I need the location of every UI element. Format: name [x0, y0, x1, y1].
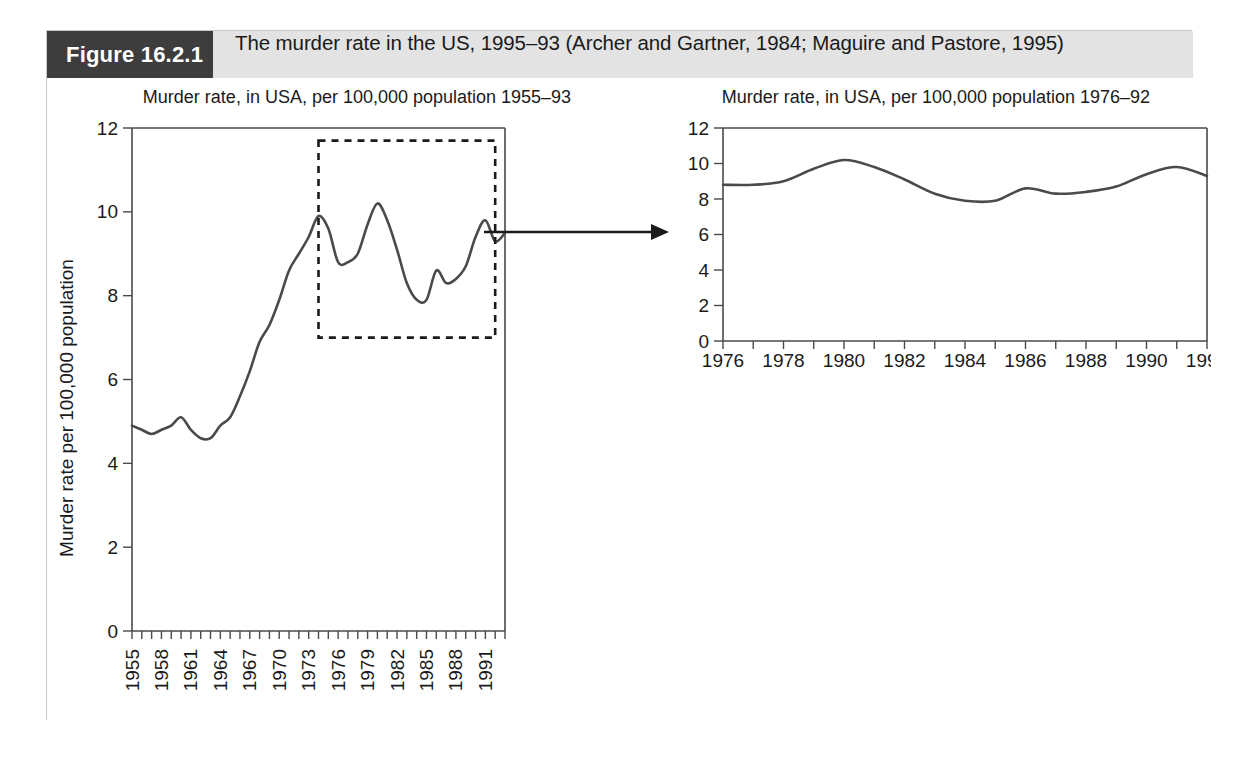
x-tick-label: 1958 [151, 649, 172, 691]
right-x-tick-group: 197619781980198219841986198819901992 [702, 341, 1211, 371]
left-x-tick-group: 1955195819611964196719701973197619791982… [122, 631, 506, 691]
y-tick-label: 4 [698, 260, 709, 281]
x-tick-label: 1991 [475, 649, 496, 691]
y-tick-label: 0 [698, 331, 709, 352]
x-tick-label: 1986 [1004, 350, 1046, 371]
x-tick-label: 1964 [210, 649, 231, 692]
x-tick-label: 1988 [1065, 350, 1107, 371]
figure-body: Murder rate, in USA, per 100,000 populat… [47, 78, 1193, 720]
figure-number-block: Figure 16.2.1 [47, 31, 213, 78]
left-data-line [132, 203, 505, 439]
y-tick-label: 2 [698, 295, 709, 316]
y-tick-label: 2 [107, 537, 118, 558]
x-tick-label: 1982 [883, 350, 925, 371]
x-tick-label: 1984 [944, 350, 987, 371]
right-y-tick-group: 024681012 [688, 118, 723, 352]
x-tick-label: 1988 [445, 649, 466, 691]
y-tick-label: 6 [107, 369, 118, 390]
right-chart-title: Murder rate, in USA, per 100,000 populat… [722, 87, 1150, 107]
figure-caption: The murder rate in the US, 1995–93 (Arch… [213, 31, 1064, 55]
left-chart-title: Murder rate, in USA, per 100,000 populat… [143, 87, 571, 107]
y-tick-label: 12 [97, 118, 118, 139]
figure-header: Figure 16.2.1 The murder rate in the US,… [47, 31, 1193, 78]
figure-page: Figure 16.2.1 The murder rate in the US,… [0, 0, 1236, 776]
y-tick-label: 12 [688, 118, 709, 139]
highlight-region-box [319, 141, 496, 338]
y-tick-label: 4 [107, 453, 118, 474]
left-y-tick-group: 024681012 [97, 118, 132, 642]
x-tick-label: 1990 [1125, 350, 1167, 371]
y-tick-label: 8 [107, 285, 118, 306]
left-y-axis-title: Murder rate per 100,000 population [56, 259, 77, 557]
x-tick-label: 1976 [328, 649, 349, 691]
figure-card: Figure 16.2.1 The murder rate in the US,… [46, 30, 1192, 720]
x-tick-label: 1979 [357, 649, 378, 691]
y-tick-label: 10 [688, 153, 709, 174]
y-tick-label: 10 [97, 201, 118, 222]
right-data-line [723, 160, 1207, 202]
x-tick-label: 1978 [762, 350, 804, 371]
x-tick-label: 1980 [823, 350, 865, 371]
left-chart: Murder rate, in USA, per 100,000 populat… [47, 78, 667, 720]
right-chart: Murder rate, in USA, per 100,000 populat… [651, 78, 1211, 478]
x-tick-label: 1976 [702, 350, 744, 371]
x-tick-label: 1955 [122, 649, 143, 691]
figure-caption-container: The murder rate in the US, 1995–93 (Arch… [213, 31, 1064, 78]
y-tick-label: 0 [107, 621, 118, 642]
y-tick-label: 8 [698, 189, 709, 210]
figure-number-label: Figure 16.2.1 [66, 42, 203, 68]
x-tick-label: 1967 [239, 649, 260, 691]
x-tick-label: 1992 [1186, 350, 1211, 371]
x-tick-label: 1973 [298, 649, 319, 691]
x-tick-label: 1982 [387, 649, 408, 691]
x-tick-label: 1985 [416, 649, 437, 691]
x-tick-label: 1970 [269, 649, 290, 691]
y-tick-label: 6 [698, 224, 709, 245]
x-tick-label: 1961 [180, 649, 201, 691]
